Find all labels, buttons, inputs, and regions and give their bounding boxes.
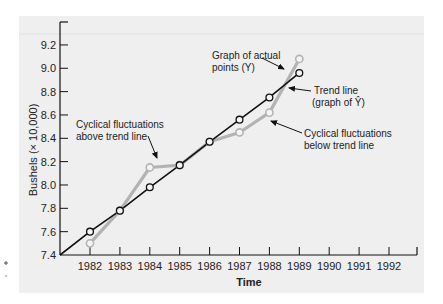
y-axis-title: Bushels (× 10,000) [27,104,39,197]
y-tick-label: 8.6 [41,109,56,121]
y-tick-label: 8.4 [41,132,56,144]
annotation-actual-line2: points (Y) [212,62,255,73]
y-tick-label: 8.2 [41,156,56,168]
x-tick-label: 1984 [138,260,162,272]
x-tick-label: 1982 [78,260,102,272]
annotation-above-line2: above trend line [76,131,148,142]
trend-point-marker [117,207,124,214]
x-axis-title: Time [236,276,261,288]
x-tick-label: 1988 [257,260,281,272]
y-tick-label: 7.8 [41,202,56,214]
x-tick-label: 1991 [347,260,371,272]
trend-point-marker [146,184,153,191]
x-tick-label: 1983 [108,260,132,272]
y-tick-label: 7.6 [41,226,56,238]
annotation-above-line1: Cyclical fluctuations [76,119,164,130]
x-tick-label: 1986 [197,260,221,272]
trend-point-marker [236,116,243,123]
trend-point-marker [176,162,183,169]
trend-point-marker [266,94,273,101]
chart: 7.47.67.88.08.28.48.68.89.09.21982198319… [0,0,443,304]
actual-point-marker [266,109,273,116]
x-tick-label: 1989 [287,260,311,272]
trend-point-marker [296,70,303,77]
trend-point-marker [87,228,94,235]
x-tick-label: 1990 [317,260,341,272]
annotation-trend-line2: (graph of Ŷ) [312,96,365,108]
x-tick-label: 1987 [227,260,251,272]
actual-point-marker [86,240,93,247]
y-tick-label: 9.0 [41,62,56,74]
y-tick-label: 8.0 [41,179,56,191]
annotation-actual-line1: Graph of actual [212,50,280,61]
y-tick-label: 9.2 [41,39,56,51]
trend-point-marker [206,138,213,145]
actual-point-marker [296,55,303,62]
annotation-trend-line1: Trend line [314,85,359,96]
x-tick-label: 1992 [377,260,401,272]
annotation-below-line2: below trend line [304,140,374,151]
y-tick-label: 8.8 [41,86,56,98]
actual-point-marker [236,129,243,136]
x-tick-label: 1985 [167,260,191,272]
margin-dot [5,275,7,277]
actual-point-marker [146,164,153,171]
y-tick-label: 7.4 [41,249,56,261]
annotation-below-line1: Cyclical fluctuations [304,128,392,139]
